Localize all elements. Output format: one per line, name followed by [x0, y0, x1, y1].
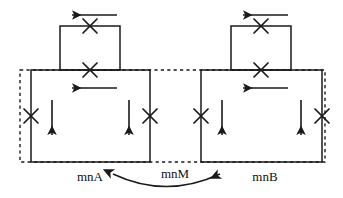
shared-dashed-boundary [20, 70, 325, 162]
label-mnA: mnA [77, 169, 104, 184]
figure-root: mnA mnM mnB [0, 0, 343, 198]
left-lower-large-box [31, 70, 150, 162]
diagram-canvas: mnA mnM mnB [0, 0, 343, 198]
left-group-mnA [24, 15, 157, 162]
right-lower-large-box [201, 70, 322, 162]
left-upper-small-box [60, 26, 120, 70]
right-upper-small-box [231, 26, 291, 70]
dashed-boundary-rect [20, 70, 325, 162]
label-mnB: mnB [252, 169, 278, 184]
right-group-mnB [194, 15, 329, 162]
label-mnM: mnM [161, 166, 190, 181]
